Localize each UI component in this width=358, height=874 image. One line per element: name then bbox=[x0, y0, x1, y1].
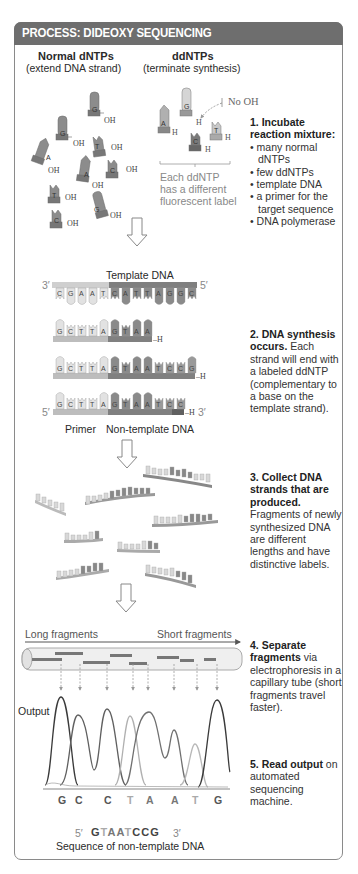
svg-text:C: C bbox=[68, 401, 73, 408]
step-4-title: 4. Separate fragments bbox=[250, 639, 306, 663]
sequence-base: A bbox=[116, 826, 124, 838]
svg-text:A: A bbox=[84, 171, 89, 178]
svg-text:A: A bbox=[134, 328, 139, 335]
svg-text:T: T bbox=[156, 401, 161, 408]
base-call: C bbox=[75, 794, 83, 806]
svg-text:G: G bbox=[184, 103, 189, 110]
seq-3prime: 3′ bbox=[173, 827, 181, 839]
svg-text:OH: OH bbox=[104, 116, 116, 125]
svg-text:T: T bbox=[101, 290, 106, 297]
svg-text:T: T bbox=[145, 290, 150, 297]
svg-text:G: G bbox=[112, 365, 117, 372]
sequence-base: C bbox=[141, 826, 150, 838]
strand-3prime: 3′ bbox=[198, 406, 206, 418]
svg-text:G: G bbox=[178, 290, 183, 297]
step-1-item: a primer for the target sequence bbox=[250, 190, 342, 215]
no-oh-label: No OH bbox=[228, 96, 259, 108]
sequence-base: G bbox=[150, 826, 160, 838]
svg-text:G: G bbox=[57, 365, 62, 372]
template-bases: CGAATCATTAGGC bbox=[56, 288, 196, 305]
svg-text:–H: –H bbox=[184, 408, 195, 417]
svg-text:A: A bbox=[134, 401, 139, 408]
svg-text:C: C bbox=[57, 290, 62, 297]
base-call: C bbox=[104, 794, 112, 806]
svg-text:OH: OH bbox=[65, 193, 77, 202]
svg-text:C: C bbox=[178, 365, 183, 372]
svg-text:C: C bbox=[68, 328, 73, 335]
step-1: 1. Incubate reaction mixture: many norma… bbox=[250, 116, 342, 228]
step-1-item: template DNA bbox=[250, 178, 342, 190]
svg-text:H: H bbox=[225, 133, 231, 142]
svg-text:T: T bbox=[79, 401, 84, 408]
svg-text:A: A bbox=[145, 401, 150, 408]
step-5: 5. Read output on automated sequencing m… bbox=[250, 758, 342, 808]
svg-text:OH: OH bbox=[48, 166, 60, 175]
primer-label: Primer bbox=[65, 423, 96, 435]
svg-text:G: G bbox=[60, 130, 65, 137]
svg-text:A: A bbox=[46, 154, 51, 161]
step-2: 2. DNA synthesis occurs. Each strand wil… bbox=[250, 328, 342, 415]
svg-text:G: G bbox=[112, 328, 117, 335]
svg-text:T: T bbox=[79, 365, 84, 372]
svg-text:A: A bbox=[101, 401, 106, 408]
sequence-readout: GTAATCCG bbox=[91, 826, 160, 839]
normal-nucleotides bbox=[31, 92, 118, 228]
svg-text:G: G bbox=[92, 106, 97, 113]
svg-text:C: C bbox=[54, 217, 59, 224]
svg-text:H: H bbox=[205, 145, 211, 154]
svg-text:A: A bbox=[101, 365, 106, 372]
template-dna-label: Template DNA bbox=[106, 269, 174, 281]
step-1-item: DNA polymerase bbox=[250, 215, 342, 227]
svg-text:G: G bbox=[68, 290, 73, 297]
svg-text:C: C bbox=[178, 401, 183, 408]
svg-text:A: A bbox=[134, 365, 139, 372]
dna-fragments bbox=[35, 474, 218, 588]
dd-note-line3: fluorescent label bbox=[160, 195, 236, 207]
step-1-item: many normal dNTPs bbox=[250, 141, 342, 166]
output-label: Output bbox=[18, 705, 50, 717]
svg-text:T: T bbox=[123, 401, 128, 408]
svg-text:–H: –H bbox=[195, 372, 206, 381]
svg-text:T: T bbox=[123, 365, 128, 372]
strand-5prime: 5′ bbox=[42, 406, 50, 418]
svg-text:C: C bbox=[167, 401, 172, 408]
sequence-base: C bbox=[132, 826, 141, 838]
svg-text:G: G bbox=[189, 365, 194, 372]
svg-text:T: T bbox=[123, 328, 128, 335]
svg-text:G: G bbox=[57, 328, 62, 335]
long-fragments-label: Long fragments bbox=[25, 628, 98, 640]
svg-text:C: C bbox=[68, 365, 73, 372]
base-call: T bbox=[192, 794, 198, 806]
svg-text:OH: OH bbox=[92, 181, 104, 190]
svg-text:OH: OH bbox=[126, 165, 138, 174]
svg-text:A: A bbox=[79, 290, 84, 297]
svg-text:T: T bbox=[156, 365, 161, 372]
step-3: 3. Collect DNA strands that are produced… bbox=[250, 471, 342, 570]
dd-note-line2: has a different bbox=[160, 183, 226, 195]
base-call: A bbox=[146, 794, 154, 806]
template-3prime: 3′ bbox=[42, 279, 50, 291]
svg-text:H: H bbox=[196, 118, 202, 127]
svg-text:–H: –H bbox=[152, 335, 163, 344]
svg-text:A: A bbox=[145, 365, 150, 372]
base-call: G bbox=[214, 794, 222, 806]
svg-text:G: G bbox=[167, 290, 172, 297]
svg-text:T: T bbox=[214, 127, 219, 134]
svg-text:A: A bbox=[90, 290, 95, 297]
template-5prime: 5′ bbox=[200, 279, 208, 291]
svg-text:OH: OH bbox=[73, 139, 85, 148]
svg-text:A: A bbox=[161, 120, 166, 127]
seq-5prime: 5′ bbox=[75, 827, 83, 839]
base-call: G bbox=[58, 794, 66, 806]
sequence-caption: Sequence of non-template DNA bbox=[56, 840, 204, 852]
svg-text:G: G bbox=[112, 401, 117, 408]
step-5-title: 5. Read output bbox=[250, 758, 323, 770]
step-1-title: 1. Incubate reaction mixture: bbox=[250, 116, 335, 140]
svg-text:C: C bbox=[110, 167, 115, 174]
sequence-base: G bbox=[91, 826, 101, 838]
nontemplate-label: Non-template DNA bbox=[106, 423, 194, 435]
step-3-title: 3. Collect DNA strands that are produced… bbox=[250, 471, 329, 508]
svg-text:OH: OH bbox=[67, 219, 79, 228]
short-fragments-label: Short fragments bbox=[157, 628, 232, 640]
svg-text:C: C bbox=[189, 290, 194, 297]
